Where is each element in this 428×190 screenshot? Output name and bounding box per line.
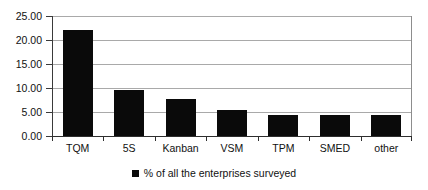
x-axis-label-other: other	[374, 142, 398, 154]
x-axis-tick-mark	[103, 136, 104, 141]
y-axis-tick-label: 25.00	[16, 10, 42, 22]
bar-other	[371, 115, 401, 136]
x-axis-tick-mark	[258, 136, 259, 141]
bar-vsm	[217, 110, 247, 136]
bar-slot	[258, 16, 309, 136]
x-axis-label-tpm: TPM	[272, 142, 294, 154]
x-axis-label-vsm: VSM	[221, 142, 244, 154]
bar-chart: 0.005.0010.0015.0020.0025.00 TQM5SKanban…	[0, 0, 428, 190]
bar-slot	[103, 16, 154, 136]
bar-tpm	[268, 115, 298, 136]
x-axis-label-5s: 5S	[123, 142, 136, 154]
bar-slot	[361, 16, 412, 136]
chart-legend: % of all the enterprises surveyed	[0, 167, 428, 179]
bar-slot	[206, 16, 257, 136]
x-axis-tick-mark	[411, 136, 412, 141]
y-axis-tick-label: 20.00	[16, 34, 42, 46]
bar-slot	[155, 16, 206, 136]
x-axis-tick-mark	[309, 136, 310, 141]
x-axis-label-kanban: Kanban	[162, 142, 198, 154]
bar-slot	[52, 16, 103, 136]
bar-kanban	[166, 99, 196, 136]
x-axis-tick-mark	[155, 136, 156, 141]
x-axis-tick-mark	[361, 136, 362, 141]
y-axis-tick-label: 0.00	[22, 130, 42, 142]
x-axis-labels: TQM5SKanbanVSMTPMSMEDother	[52, 142, 412, 158]
x-axis-tick-mark	[52, 136, 53, 141]
y-axis-tick-label: 10.00	[16, 82, 42, 94]
x-axis-label-tqm: TQM	[66, 142, 89, 154]
legend-label: % of all the enterprises surveyed	[144, 167, 296, 179]
y-axis-tick-label: 5.00	[22, 106, 42, 118]
bar-slot	[309, 16, 360, 136]
plot-area	[52, 16, 412, 136]
bar-tqm	[63, 30, 93, 136]
bar-smed	[320, 115, 350, 136]
legend-swatch-icon	[132, 170, 139, 177]
x-axis-tick-mark	[206, 136, 207, 141]
bar-5s	[114, 90, 144, 136]
x-axis-label-smed: SMED	[320, 142, 350, 154]
y-axis-labels: 0.005.0010.0015.0020.0025.00	[0, 16, 48, 136]
y-axis-tick-label: 15.00	[16, 58, 42, 70]
x-axis-ticks	[52, 136, 412, 141]
